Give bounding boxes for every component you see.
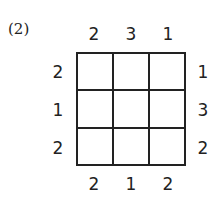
right-clue: 1 [193,62,213,82]
right-clue: 2 [193,138,213,158]
puzzle-label: (2) [8,20,29,38]
bottom-clue: 1 [121,174,141,194]
grid-cell[interactable] [77,90,113,127]
grid-cell[interactable] [149,90,185,127]
top-clue: 3 [121,24,141,44]
top-clue: 2 [84,24,104,44]
grid-cell[interactable] [149,128,185,165]
grid-cell[interactable] [77,128,113,165]
left-clue: 2 [48,138,68,158]
bottom-clue: 2 [158,174,178,194]
grid-cell[interactable] [113,128,149,165]
grid-cell[interactable] [149,53,185,90]
left-clue: 2 [48,62,68,82]
grid-cell[interactable] [113,90,149,127]
right-clue: 3 [193,100,213,120]
bottom-clue: 2 [84,174,104,194]
puzzle-grid [76,52,186,166]
grid-cell[interactable] [77,53,113,90]
left-clue: 1 [48,100,68,120]
top-clue: 1 [158,24,178,44]
grid-cell[interactable] [113,53,149,90]
